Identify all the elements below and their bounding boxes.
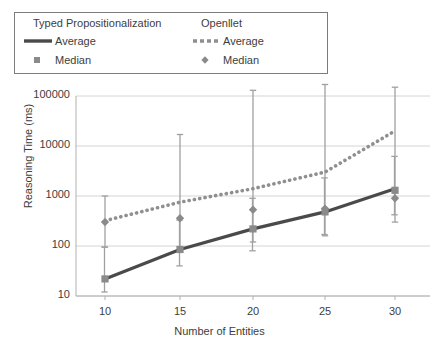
solid-line-icon <box>23 36 53 46</box>
x-tick-label: 30 <box>375 305 415 317</box>
legend-group-title-typed-propositionalization: Typed Propositionalization <box>33 17 161 29</box>
y-tick-label: 1000 <box>8 188 70 200</box>
y-tick-label: 10000 <box>8 138 70 150</box>
marker-typed-propositionalization-median <box>101 275 108 282</box>
marker-typed-propositionalization-median <box>391 187 398 194</box>
series-line-openllet-average <box>105 131 395 221</box>
legend-label-tp-median: Median <box>55 54 91 66</box>
x-tick-label: 10 <box>85 305 125 317</box>
legend-label-tp-average: Average <box>55 35 96 47</box>
legend-item-tp-median: Median <box>23 54 91 66</box>
legend-item-openllet-median: Median <box>191 54 259 66</box>
errorbars-openllet-median <box>102 85 398 250</box>
marker-typed-propositionalization-median <box>176 246 183 253</box>
dotted-line-icon <box>191 36 221 46</box>
legend-label-openllet-average: Average <box>223 35 264 47</box>
marker-typed-propositionalization-median <box>249 225 256 232</box>
marker-openllet-median <box>249 206 257 214</box>
marker-openllet-median <box>391 194 399 202</box>
legend-group-title-openllet: Openllet <box>201 17 242 29</box>
chart-legend: Typed Propositionalization Openllet Aver… <box>14 12 328 74</box>
marker-typed-propositionalization-median <box>321 208 328 215</box>
y-tick-label: 10 <box>8 288 70 300</box>
legend-item-openllet-average: Average <box>191 35 264 47</box>
x-tick-label: 25 <box>305 305 345 317</box>
x-axis-title: Number of Entities <box>0 325 439 337</box>
marker-openllet-median <box>176 214 184 222</box>
legend-label-openllet-median: Median <box>223 54 259 66</box>
chart-figure: Reasoning Time (ms) Number of Entities T… <box>0 0 439 347</box>
y-tick-label: 100 <box>8 238 70 250</box>
diamond-marker-icon <box>191 55 221 65</box>
x-tick-label: 15 <box>160 305 200 317</box>
square-marker-icon <box>23 55 53 65</box>
marker-openllet-median <box>101 218 109 226</box>
y-axis-title: Reasoning Time (ms) <box>22 86 34 226</box>
errorbars-typed-propositionalization-median <box>101 156 397 292</box>
series-line-typed-propositionalization-average <box>105 189 395 279</box>
y-tick-label: 100000 <box>8 88 70 100</box>
legend-item-tp-average: Average <box>23 35 96 47</box>
x-tick-label: 20 <box>233 305 273 317</box>
